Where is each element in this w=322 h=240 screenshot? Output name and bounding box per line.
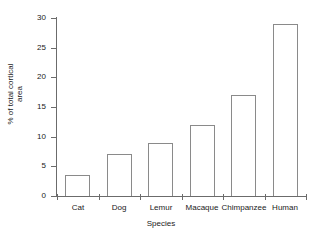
y-axis-tick xyxy=(51,137,57,138)
y-axis-tick xyxy=(51,77,57,78)
y-axis-tick-label: 5 xyxy=(42,162,46,170)
x-axis-tick xyxy=(140,194,141,200)
bar-lemur xyxy=(148,143,173,196)
x-axis-tick xyxy=(306,194,307,200)
y-axis-tick-label: 25 xyxy=(37,44,46,52)
y-axis-tick-label: 10 xyxy=(37,133,46,141)
x-axis-tick xyxy=(223,194,224,200)
y-axis-title: % of total cortical area xyxy=(6,34,24,154)
y-axis-tick xyxy=(51,107,57,108)
bar-chimpanzee xyxy=(231,95,256,196)
x-axis-tick-label: Chimpanzee xyxy=(222,203,267,212)
chart-screenshot: 051015202530 % of total cortical area Sp… xyxy=(0,0,322,240)
x-axis-tick xyxy=(265,194,266,200)
x-axis-tick-label: Lemur xyxy=(150,203,173,212)
x-axis-tick-label: Cat xyxy=(72,203,84,212)
x-axis-line xyxy=(56,196,306,197)
bar-macaque xyxy=(190,125,215,196)
x-axis-tick xyxy=(57,194,58,200)
y-axis-tick xyxy=(51,18,57,19)
x-axis-tick xyxy=(182,194,183,200)
bar-human xyxy=(273,24,298,196)
x-axis-tick xyxy=(99,194,100,200)
y-axis-tick-label: 0 xyxy=(42,192,46,200)
bar-dog xyxy=(107,154,132,196)
x-axis-tick-label: Dog xyxy=(112,203,127,212)
y-axis-tick xyxy=(51,48,57,49)
y-axis-title-line2: area xyxy=(15,34,24,154)
y-axis-tick-label: 15 xyxy=(37,103,46,111)
x-axis-title: Species xyxy=(0,219,322,228)
x-axis-tick-label: Macaque xyxy=(186,203,219,212)
y-axis-tick-label: 20 xyxy=(37,73,46,81)
y-axis-tick-label: 30 xyxy=(37,14,46,22)
x-axis-tick-label: Human xyxy=(272,203,298,212)
y-axis-tick xyxy=(51,166,57,167)
bar-cat xyxy=(65,175,90,196)
y-axis-title-line1: % of total cortical xyxy=(6,64,15,125)
